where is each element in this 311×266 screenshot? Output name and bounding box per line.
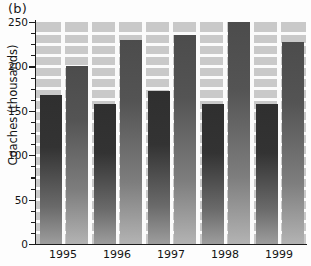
y-tick-minor	[31, 144, 35, 145]
y-tick-major	[29, 22, 35, 23]
y-tick-minor	[31, 189, 35, 190]
bar-1998-dark-bar	[202, 104, 224, 244]
y-tick-major	[29, 155, 35, 156]
bar-1997-dark-bar	[148, 91, 170, 244]
y-tick-major	[29, 111, 35, 112]
bar-series-container	[36, 22, 306, 244]
x-axis-line	[35, 244, 307, 245]
y-tick-label: 100	[0, 149, 28, 161]
y-tick-minor	[31, 78, 35, 79]
bar-1999-light-bar	[282, 42, 304, 244]
bar-1996-dark-bar	[94, 104, 116, 244]
y-tick-minor	[31, 133, 35, 134]
figure-panel-b: (b) Coaches (thousands) 050100150200250 …	[0, 0, 311, 266]
y-tick-label: 0	[0, 238, 28, 250]
y-tick-minor	[31, 122, 35, 123]
y-tick-major	[29, 200, 35, 201]
x-tick-label-1995: 1995	[33, 248, 93, 261]
bar-1995-light-bar	[66, 66, 88, 244]
y-tick-label: 50	[0, 194, 28, 206]
bar-1998-light-bar	[228, 22, 250, 244]
y-tick-major	[29, 66, 35, 67]
y-tick-label: 150	[0, 105, 28, 117]
y-tick-minor	[31, 100, 35, 101]
y-tick-major	[29, 244, 35, 245]
y-tick-minor	[31, 44, 35, 45]
y-tick-minor	[31, 166, 35, 167]
bar-1997-light-bar	[174, 35, 196, 244]
y-tick-minor	[31, 177, 35, 178]
y-tick-minor	[31, 55, 35, 56]
y-tick-minor	[31, 211, 35, 212]
x-tick-label-1998: 1998	[195, 248, 255, 261]
bar-1996-light-bar	[120, 40, 142, 244]
y-axis-line	[35, 20, 36, 245]
y-tick-label: 200	[0, 60, 28, 72]
y-tick-minor	[31, 33, 35, 34]
y-tick-minor	[31, 233, 35, 234]
plot-area	[36, 22, 306, 244]
y-tick-minor	[31, 89, 35, 90]
y-tick-minor	[31, 222, 35, 223]
panel-label: (b)	[8, 1, 27, 16]
bar-1995-dark-bar	[40, 95, 62, 244]
x-tick-label-1999: 1999	[249, 248, 309, 261]
x-tick-label-1997: 1997	[141, 248, 201, 261]
y-tick-label: 250	[0, 16, 28, 28]
bar-1999-dark-bar	[256, 104, 278, 244]
x-tick-label-1996: 1996	[87, 248, 147, 261]
